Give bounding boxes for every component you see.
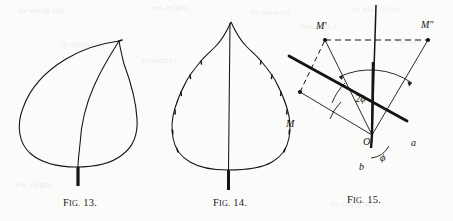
- radius-o-mdoubleprime: [372, 40, 428, 135]
- label-m-double-prime: M″: [421, 19, 434, 30]
- caption-lead-rest: IG.: [353, 196, 364, 205]
- leaf-midrib: [78, 41, 119, 167]
- caption-lead-rest: IG.: [69, 199, 80, 208]
- label-angle-phi: ϕ: [380, 152, 385, 163]
- mirror-line-b-lower: [371, 135, 372, 148]
- figure-plate: the plane of angles are rotation of refl…: [0, 0, 453, 221]
- figure-14: FIG.14.: [160, 0, 300, 221]
- construction-line-m-mprime: [300, 40, 325, 92]
- figure-15-caption: FIG.15.: [279, 189, 449, 207]
- leaf-midrib: [229, 23, 231, 170]
- label-m: M: [286, 118, 294, 129]
- label-m-prime: M': [316, 20, 326, 31]
- label-axis-b: b: [359, 161, 364, 172]
- mirror-line-a: [289, 56, 407, 121]
- point-m: [298, 90, 302, 94]
- mirror-line-b-thick: [372, 62, 373, 135]
- point-m-double-prime: [426, 38, 430, 42]
- figure-13: FIG.13.: [0, 0, 160, 221]
- figure-15: M M' M″ O a b ϕ 2ϕ FIG.15.: [283, 0, 453, 221]
- fig-15-drawing: [283, 0, 453, 200]
- label-axis-a: a: [411, 137, 416, 148]
- leaf-apex-point: [119, 40, 122, 41]
- caption-number: 15.: [367, 194, 381, 205]
- figure-13-caption: FIG.13.: [0, 192, 160, 210]
- leaf-blade-outline: [19, 41, 137, 167]
- caption-lead-rest: IG.: [219, 199, 230, 208]
- angle-arc-two-phi: [339, 70, 412, 83]
- label-angle-two-phi: 2ϕ: [355, 93, 366, 104]
- label-origin-o: O: [363, 136, 370, 147]
- caption-number: 13.: [83, 197, 97, 208]
- fig-14-drawing: [160, 0, 300, 200]
- leaf-crenation-marks-left: [173, 61, 202, 152]
- fig-13-drawing: [0, 0, 160, 200]
- caption-number: 14.: [233, 197, 247, 208]
- point-m-prime: [323, 38, 327, 42]
